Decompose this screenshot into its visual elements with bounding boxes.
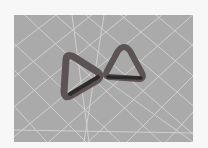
photo-scene bbox=[14, 15, 193, 142]
photo bbox=[14, 15, 193, 142]
